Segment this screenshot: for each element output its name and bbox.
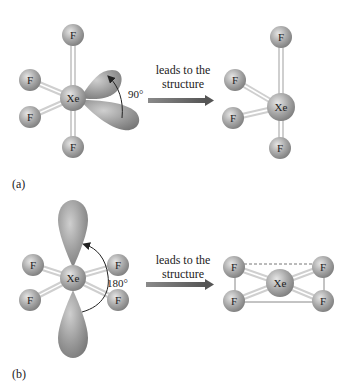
panel-b-right-molecule: F F F F Xe [223,256,334,312]
fluorine-atom: F [107,254,129,276]
panel-b-label: (b) [12,367,26,381]
fluorine-atom: F [223,256,245,278]
svg-text:F: F [27,74,33,86]
panel-a-label: (a) [12,177,25,191]
arrow-head-icon [205,95,214,106]
panel-b-arrow: leads to the structure [146,253,214,290]
xenon-atom: Xe [266,269,294,297]
xenon-atom: Xe [60,265,86,291]
lone-pair-lobe-lower [58,290,88,358]
arrow-head-icon [205,279,214,290]
fluorine-atom: F [22,254,44,276]
svg-text:F: F [277,142,283,154]
fluorine-atom: F [62,24,84,46]
panel-a: 90° F F F F Xe leads to the structure F [12,24,295,191]
svg-text:F: F [70,141,76,153]
arrow-caption-line1: leads to the [156,253,211,267]
fluorine-atom: F [269,137,291,159]
fluorine-atom: F [222,107,244,129]
svg-text:Xe: Xe [275,101,288,113]
fluorine-atom: F [224,69,246,91]
svg-text:F: F [278,31,284,43]
svg-text:F: F [27,111,33,123]
svg-text:F: F [231,261,237,273]
arrow-caption-line1: leads to the [156,63,211,77]
lone-pair-lobe-upper [58,200,88,268]
svg-text:F: F [115,259,121,271]
panel-a-left-molecule: 90° F F F F Xe [19,24,143,158]
svg-text:F: F [230,112,236,124]
angle-label: 180° [107,277,128,289]
fluorine-atom: F [312,256,334,278]
angle-label: 90° [128,88,143,100]
fluorine-atom: F [19,69,41,91]
bonds [233,37,283,148]
arrow-shaft [148,98,206,103]
svg-text:F: F [320,261,326,273]
xef4-diagram: 90° F F F F Xe leads to the structure F [0,0,354,390]
svg-text:F: F [115,294,121,306]
arrow-caption-line2: structure [162,77,204,91]
svg-text:Xe: Xe [274,277,287,289]
fluorine-atom: F [223,290,245,312]
svg-text:F: F [320,295,326,307]
arrow-shaft [146,282,206,287]
svg-text:F: F [70,29,76,41]
arrow-caption-line2: structure [162,267,204,281]
lone-pair-lobe-lower [80,100,139,130]
fluorine-atom: F [62,136,84,158]
fluorine-atom: F [107,289,129,311]
svg-text:Xe: Xe [67,272,80,284]
fluorine-atom: F [312,290,334,312]
xenon-atom: Xe [60,85,86,111]
svg-text:F: F [27,294,33,306]
panel-b: 180° F F F F Xe leads to the structure [12,200,334,381]
svg-text:F: F [231,295,237,307]
panel-b-left-molecule: 180° F F F F Xe [19,200,129,358]
svg-text:F: F [232,74,238,86]
fluorine-atom: F [19,106,41,128]
panel-a-right-molecule: F F F F Xe [222,26,295,159]
fluorine-atom: F [19,289,41,311]
xenon-atom: Xe [267,93,295,121]
svg-text:F: F [30,259,36,271]
fluorine-atom: F [270,26,292,48]
svg-text:Xe: Xe [67,92,80,104]
panel-a-arrow: leads to the structure [148,63,214,106]
